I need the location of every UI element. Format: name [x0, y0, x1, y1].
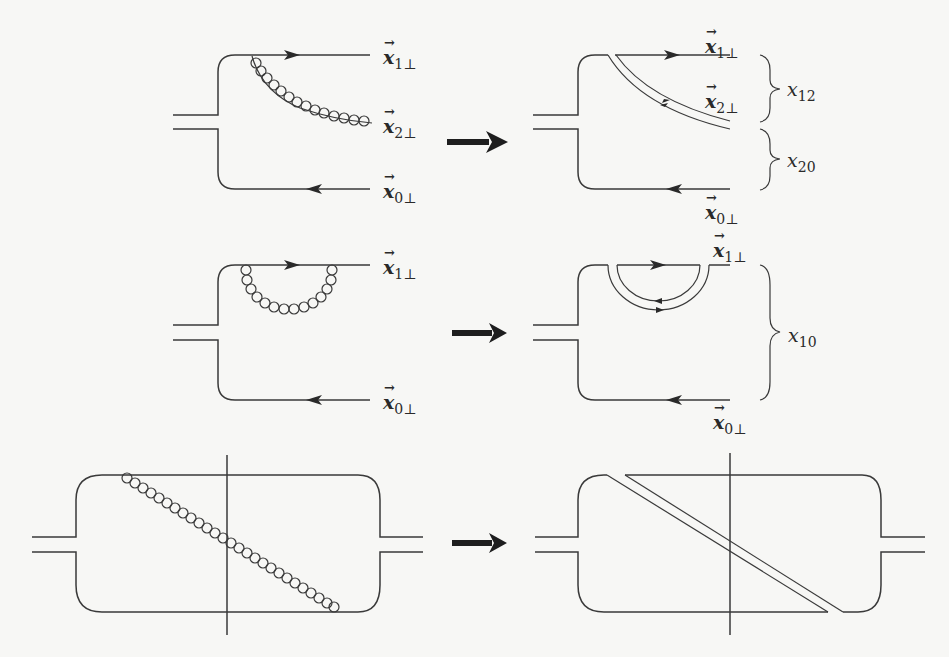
distance-x12: x12 [787, 80, 816, 103]
label-x1: x1⊥ [705, 37, 738, 60]
label-x1: x1⊥ [383, 48, 416, 71]
gluon-row2 [241, 265, 337, 314]
gluon-row3 [122, 473, 339, 612]
gluon-row1 [251, 58, 369, 126]
label-x2: x2⊥ [383, 117, 416, 140]
label-x0: x0⊥ [383, 393, 416, 416]
label-x0: x0⊥ [713, 413, 746, 436]
label-x2: x2⊥ [705, 92, 738, 115]
distance-x10: x10 [788, 326, 817, 349]
label-x1: x1⊥ [383, 258, 416, 281]
label-x0: x0⊥ [705, 203, 738, 226]
label-x1: x1⊥ [713, 241, 746, 264]
distance-x20: x20 [787, 151, 816, 174]
label-x0: x0⊥ [383, 182, 416, 205]
